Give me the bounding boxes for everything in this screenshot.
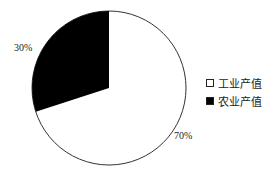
legend-item-industry: 工业产值 <box>206 74 262 92</box>
legend-label: 工业产值 <box>218 75 262 91</box>
legend: 工业产值 农业产值 <box>206 74 262 110</box>
swatch-white-icon <box>206 79 214 87</box>
legend-item-agriculture: 农业产值 <box>206 92 262 110</box>
label-industry: 70% <box>174 130 192 141</box>
label-agriculture: 30% <box>14 42 32 53</box>
swatch-black-icon <box>206 97 214 105</box>
legend-label: 农业产值 <box>218 93 262 109</box>
